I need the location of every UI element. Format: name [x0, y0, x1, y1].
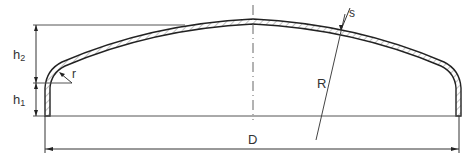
label-r: r	[72, 68, 76, 80]
label-R: R	[317, 77, 326, 90]
label-h2: h2	[13, 48, 25, 63]
label-D: D	[248, 133, 257, 146]
label-h1: h1	[13, 93, 25, 108]
height-dimension	[34, 25, 38, 116]
label-s: s	[349, 7, 355, 19]
